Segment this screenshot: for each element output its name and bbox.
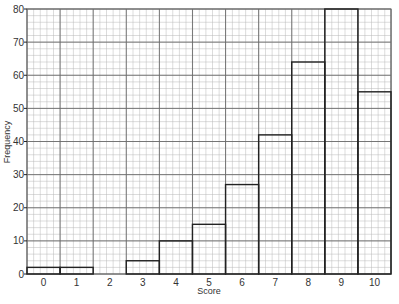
x-tick-label: 6 [239, 277, 245, 288]
histogram-chart: 01020304050607080 012345678910 Score Fre… [0, 0, 399, 304]
x-tick-label: 8 [305, 277, 311, 288]
bar-10 [358, 92, 391, 274]
y-tick-label: 20 [13, 202, 25, 213]
x-axis-title: Score [197, 286, 221, 296]
y-tick-label: 30 [13, 169, 25, 180]
y-axis-ticks: 01020304050607080 [13, 4, 27, 280]
y-tick-label: 60 [13, 70, 25, 81]
y-tick-label: 0 [18, 269, 24, 280]
bar-7 [259, 135, 292, 274]
y-axis-title: Frequency [2, 120, 12, 163]
y-tick-label: 40 [13, 136, 25, 147]
bar-4 [159, 241, 192, 274]
x-tick-label: 9 [339, 277, 345, 288]
y-tick-label: 50 [13, 103, 25, 114]
x-tick-label: 7 [272, 277, 278, 288]
y-tick-label: 10 [13, 235, 25, 246]
x-tick-label: 1 [74, 277, 80, 288]
bar-0 [27, 267, 60, 274]
x-tick-label: 4 [173, 277, 179, 288]
bar-1 [60, 267, 93, 274]
y-tick-label: 70 [13, 37, 25, 48]
bar-5 [192, 224, 225, 274]
x-tick-label: 2 [107, 277, 113, 288]
y-tick-label: 80 [13, 4, 25, 15]
x-tick-label: 0 [41, 277, 47, 288]
x-tick-label: 3 [140, 277, 146, 288]
x-tick-label: 10 [369, 277, 381, 288]
